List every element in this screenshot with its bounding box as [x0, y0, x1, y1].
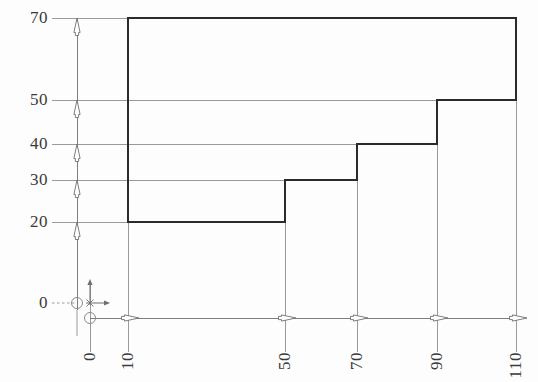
y-dimension-axis [74, 18, 80, 310]
y-tick-label-0: 0 [18, 293, 48, 313]
x-tick-label-90: 90 [427, 352, 447, 370]
x-tick-label-70: 70 [347, 352, 367, 370]
x-arrow-110 [510, 315, 528, 321]
csys-up-arrowhead [87, 279, 92, 285]
y-tick-label-30: 30 [18, 170, 48, 190]
x-tick-label-0: 0 [80, 352, 100, 361]
y-arrow-70 [74, 18, 80, 36]
y-tick-label-70: 70 [18, 8, 48, 28]
x-tick-label-50: 50 [275, 352, 295, 370]
vertical-gridlines [90, 100, 516, 352]
csys-right-arrowhead [104, 300, 110, 305]
x-tick-stubs [90, 332, 516, 345]
y-arrow-20 [74, 222, 80, 240]
technical-drawing-svg [0, 0, 538, 382]
y-tick-label-20: 20 [18, 212, 48, 232]
y-arrow-30 [74, 180, 80, 198]
x-arrow-70 [351, 315, 369, 321]
coordinate-system-icon [86, 279, 110, 307]
profile-outline [128, 18, 516, 222]
drawing-canvas: 70 50 40 30 20 0 0 10 50 70 90 110 [0, 0, 538, 382]
x-arrow-90 [431, 315, 449, 321]
x-arrow-50 [279, 315, 297, 321]
x-dimension-axis [90, 315, 527, 321]
y-tick-label-40: 40 [18, 134, 48, 154]
x-tick-label-110: 110 [506, 352, 526, 378]
x-arrow-10 [122, 315, 140, 321]
y-arrow-40 [74, 144, 80, 162]
y-arrow-50 [74, 100, 80, 118]
origin-datum-marker [52, 279, 110, 336]
x-tick-label-10: 10 [118, 352, 138, 370]
y-tick-label-50: 50 [18, 90, 48, 110]
